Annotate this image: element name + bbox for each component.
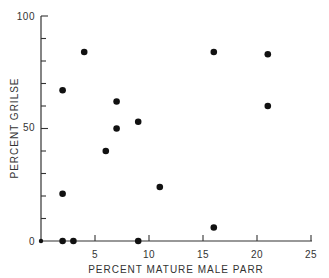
y-tick-label-50: 50	[23, 122, 35, 133]
data-point	[81, 49, 88, 56]
x-tick-label-15: 15	[197, 249, 209, 260]
data-points	[39, 49, 271, 245]
data-point	[59, 87, 66, 94]
data-point	[39, 239, 43, 243]
x-tick-label-20: 20	[251, 249, 263, 260]
data-point	[113, 98, 120, 105]
data-point	[70, 238, 77, 245]
x-ticks	[95, 235, 311, 241]
x-tick-label-10: 10	[143, 249, 155, 260]
data-point	[103, 148, 110, 155]
x-tick-label-5: 5	[92, 249, 98, 260]
data-point	[265, 103, 272, 110]
data-point	[211, 49, 218, 56]
data-point	[265, 51, 272, 58]
axes	[41, 16, 312, 241]
y-tick-label-100: 100	[17, 11, 35, 22]
data-point	[135, 118, 142, 125]
y-tick-label-0: 0	[29, 236, 35, 247]
data-point	[157, 184, 164, 191]
data-point	[211, 224, 218, 231]
data-point	[113, 125, 120, 132]
y-ticks	[41, 16, 48, 219]
data-point	[59, 238, 66, 245]
data-point	[59, 190, 66, 197]
data-point	[135, 238, 142, 245]
scatter-chart: 100 50 0 5 10 15 20 25 PERCENT MATURE MA…	[0, 0, 329, 278]
x-axis-title: PERCENT MATURE MALE PARR	[88, 264, 264, 275]
x-tick-label-25: 25	[305, 249, 317, 260]
y-axis-title: PERCENT GRILSE	[9, 77, 20, 178]
